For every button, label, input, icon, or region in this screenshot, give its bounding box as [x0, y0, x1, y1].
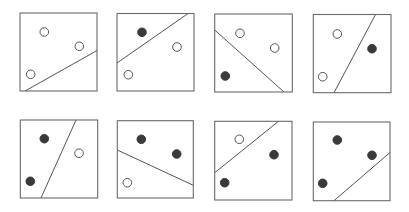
- panel-frame: [313, 122, 390, 201]
- filled-point: [138, 28, 147, 37]
- open-point: [40, 28, 49, 37]
- panel-7: [215, 121, 292, 200]
- open-point: [236, 29, 245, 38]
- panel-5: [20, 120, 97, 198]
- filled-point: [172, 150, 181, 159]
- panel-4: [313, 15, 391, 93]
- open-point: [123, 178, 132, 187]
- filled-point: [40, 134, 49, 143]
- panel-3: [215, 14, 293, 92]
- open-point: [318, 72, 327, 81]
- open-point: [75, 42, 84, 51]
- panel-8: [313, 122, 390, 201]
- panel-frame: [215, 121, 292, 200]
- panel-frame: [20, 13, 97, 91]
- shattering-diagram: [0, 0, 409, 212]
- open-point: [26, 70, 35, 79]
- filled-point: [368, 151, 377, 160]
- filled-point: [368, 44, 377, 53]
- filled-point: [137, 135, 146, 144]
- panel-2: [117, 14, 194, 92]
- open-point: [75, 149, 84, 158]
- open-point: [235, 135, 244, 144]
- filled-point: [270, 150, 279, 159]
- open-point: [124, 70, 133, 79]
- panel-6: [117, 121, 193, 198]
- open-point: [173, 43, 182, 52]
- filled-point: [26, 177, 35, 186]
- panel-1: [20, 13, 97, 91]
- panel-grid: [20, 13, 391, 201]
- filled-point: [220, 178, 229, 187]
- filled-point: [333, 136, 342, 145]
- filled-point: [221, 72, 230, 81]
- open-point: [333, 30, 342, 39]
- open-point: [270, 44, 279, 53]
- panel-frame: [313, 15, 391, 93]
- filled-point: [318, 179, 327, 188]
